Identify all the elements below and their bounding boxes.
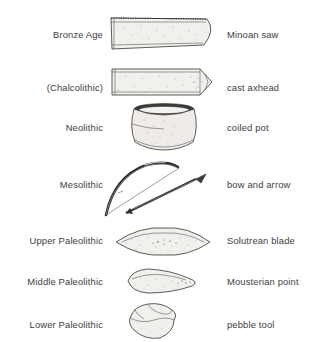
leaf-blade-illustration [108,225,220,259]
period-label: Neolithic [0,122,103,133]
diagram-row: (Chalcolithic) [0,58,315,103]
period-label: Bronze Age [0,29,103,40]
diagram-row: Upper Paleolithic [0,223,315,265]
saw-blade-illustration [108,14,220,54]
period-label: Middle Paleolithic [0,276,103,287]
artifact-label: coiled pot [227,122,315,133]
diagram-row: Mesolithic bow and arrow [0,155,315,223]
diagram-row: Lower Paleolithic pebble tool [0,300,315,342]
diagram-row: Neolithic coiled pot [0,102,315,155]
artifact-label: Mousterian point [227,276,315,287]
period-label: Mesolithic [0,179,103,190]
pointed-flake-illustration [116,266,228,298]
artifact-label: Solutrean blade [227,235,315,246]
diagram-row: Middle Paleolithic Mousterian [0,265,315,301]
period-tool-diagram: Bronze Age [0,0,315,342]
artifact-label: cast axhead [227,82,315,93]
bow-and-arrow-illustration [100,157,235,221]
coiled-pot-illustration [108,102,220,154]
period-label: Lower Paleolithic [0,319,103,330]
artifact-label: pebble tool [227,319,315,330]
axhead-illustration [108,64,220,102]
period-label: Upper Paleolithic [0,235,103,246]
pebble-tool-illustration [118,300,230,342]
artifact-label: bow and arrow [227,179,315,190]
period-label: (Chalcolithic) [0,82,103,93]
artifact-label: Minoan saw [227,29,315,40]
diagram-row: Bronze Age [0,0,315,56]
